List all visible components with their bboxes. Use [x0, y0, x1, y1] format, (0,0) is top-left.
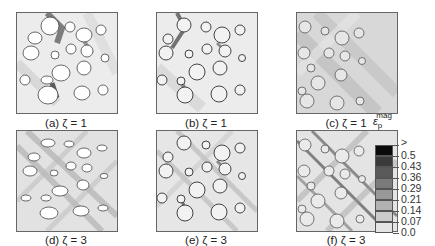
legend-subscript: p — [378, 121, 382, 130]
strain-field-e — [157, 131, 257, 231]
legend-tick — [393, 178, 399, 179]
legend-swatch — [375, 167, 393, 178]
legend-swatch — [375, 189, 393, 200]
panel-d — [16, 130, 118, 232]
panel-a — [16, 12, 118, 114]
legend-label: > — [401, 136, 407, 148]
strain-field-b — [157, 13, 257, 113]
caption-e: (e) ζ = 3 — [146, 234, 266, 246]
legend-swatch — [375, 145, 393, 156]
caption-b: (b) ζ = 1 — [146, 117, 266, 129]
caption-a: (a) ζ = 1 — [6, 117, 126, 129]
legend-tick — [393, 189, 399, 190]
legend-swatch — [375, 211, 393, 222]
strain-field-d — [17, 131, 117, 231]
strain-field-c — [297, 13, 397, 113]
legend-swatch — [375, 200, 393, 211]
legend-swatch — [375, 222, 393, 233]
strain-field-a — [17, 13, 117, 113]
panel-b — [156, 12, 258, 114]
caption-f: (f) ζ = 3 — [286, 234, 406, 246]
legend-title: εpmag — [373, 113, 398, 130]
panel-e — [156, 130, 258, 232]
legend-tick — [393, 145, 399, 146]
legend-swatch — [375, 156, 393, 167]
caption-d: (d) ζ = 3 — [6, 234, 126, 246]
legend-tick — [393, 156, 399, 157]
legend-tick — [393, 233, 399, 234]
legend-tick — [393, 211, 399, 212]
panel-c — [296, 12, 398, 114]
legend-tick — [393, 200, 399, 201]
legend-tick — [393, 222, 399, 223]
legend-superscript: mag — [376, 111, 392, 120]
legend-tick — [393, 167, 399, 168]
legend-swatch — [375, 178, 393, 189]
legend-label: 0.0 — [401, 226, 416, 238]
